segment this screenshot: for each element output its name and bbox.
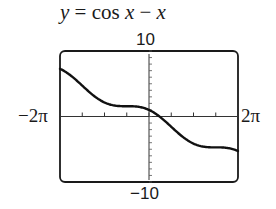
plot-area bbox=[0, 0, 276, 209]
